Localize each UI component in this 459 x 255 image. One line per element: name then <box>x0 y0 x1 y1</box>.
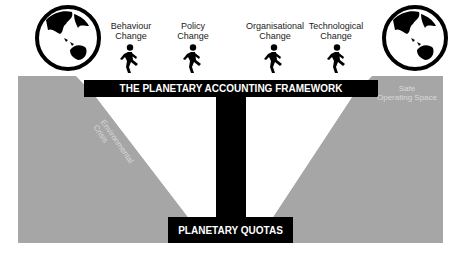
actor-label-policy: Policy Change <box>170 21 216 41</box>
framework-bar: THE PLANETARY ACCOUNTING FRAMEWORK <box>84 80 378 97</box>
quotas-label: PLANETARY QUOTAS <box>178 225 283 236</box>
walking-person-icon <box>326 44 348 74</box>
framework-label: THE PLANETARY ACCOUNTING FRAMEWORK <box>120 83 343 94</box>
framework-post <box>216 97 246 218</box>
actor-label-organisational: Organisational Change <box>240 21 310 41</box>
walking-person-icon <box>119 44 141 74</box>
actor-label-behaviour: Behaviour Change <box>106 21 156 41</box>
walking-person-icon <box>182 44 204 74</box>
globe-icon <box>34 4 102 72</box>
walking-person-icon <box>263 44 285 74</box>
safe-operating-space-label: Safe Operating Space <box>372 84 442 102</box>
globe-icon <box>381 4 449 72</box>
actor-label-technological: Technological Change <box>304 21 368 41</box>
quotas-box: PLANETARY QUOTAS <box>168 217 293 243</box>
